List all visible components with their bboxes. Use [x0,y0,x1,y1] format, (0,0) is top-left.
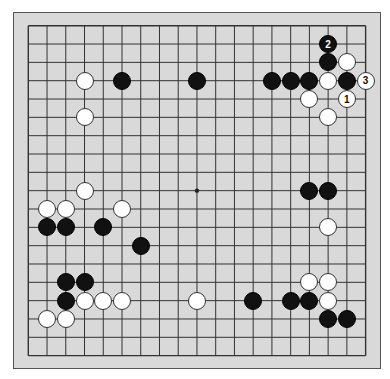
black-stone[interactable] [244,292,262,310]
white-stone[interactable] [38,200,56,218]
white-stone[interactable] [76,292,94,310]
black-stone[interactable] [263,72,281,90]
black-stone[interactable] [113,72,131,90]
white-stone[interactable]: 3 [357,72,375,90]
white-stone[interactable] [76,182,94,200]
white-stone[interactable] [76,72,94,90]
white-stone[interactable] [76,108,94,126]
black-stone[interactable] [300,182,318,200]
star-point-icon [195,188,199,192]
black-stone[interactable] [300,292,318,310]
white-stone[interactable] [113,200,131,218]
move-number-label: 2 [325,39,331,50]
white-stone[interactable] [319,72,337,90]
move-number-label: 3 [363,75,369,86]
black-stone[interactable] [319,310,337,328]
black-stone[interactable] [57,292,75,310]
white-stone[interactable] [113,292,131,310]
move-number-label: 1 [344,94,350,105]
black-stone[interactable] [300,72,318,90]
white-stone[interactable] [57,200,75,218]
black-stone[interactable] [338,72,356,90]
black-stone[interactable] [338,310,356,328]
black-stone[interactable] [76,273,94,291]
black-stone[interactable] [319,182,337,200]
white-stone[interactable] [38,310,56,328]
white-stone[interactable]: 1 [338,90,356,108]
white-stone[interactable] [319,292,337,310]
black-stone[interactable] [282,292,300,310]
black-stone[interactable] [57,218,75,236]
black-stone[interactable] [132,237,150,255]
white-stone[interactable] [94,292,112,310]
black-stone[interactable] [188,72,206,90]
white-stone[interactable] [188,292,206,310]
white-stone[interactable] [57,310,75,328]
black-stone[interactable] [282,72,300,90]
black-stone[interactable] [57,273,75,291]
